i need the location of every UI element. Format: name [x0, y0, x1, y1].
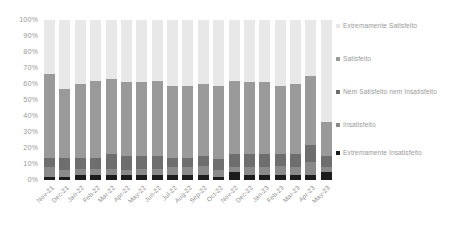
bar-aug-22[interactable] — [182, 20, 193, 180]
legend-label: Satisfeito — [343, 55, 371, 64]
bar-dec-22[interactable] — [244, 20, 255, 180]
bar-nov-22[interactable] — [229, 20, 240, 180]
legend-swatch-icon — [336, 90, 340, 94]
legend-label: Extremamente Satisfeito — [343, 22, 417, 31]
y-tick-label: 50% — [0, 96, 38, 104]
bar-segment — [182, 158, 193, 168]
bar-jan-23[interactable] — [259, 20, 270, 180]
bar-dec-21[interactable] — [59, 20, 70, 180]
bar-feb-23[interactable] — [275, 20, 286, 180]
bar-segment — [259, 20, 270, 82]
bar-segment — [213, 177, 224, 180]
bar-segment — [90, 158, 101, 169]
x-tick-wrap: Jun-22 — [152, 181, 163, 225]
bar-segment — [259, 154, 270, 167]
x-tick-wrap: Sep-22 — [198, 181, 209, 225]
bar-segment — [213, 86, 224, 160]
bar-jun-22[interactable] — [152, 20, 163, 180]
bar-segment — [229, 20, 240, 81]
bar-segment — [106, 154, 117, 168]
bar-segment — [290, 84, 301, 154]
y-tick-label: 100% — [0, 16, 38, 24]
legend-item-2[interactable]: Satisfeito — [336, 55, 371, 64]
legend-label: Nem Satisfeito nem Insatisfeito — [343, 88, 437, 97]
bar-segment — [121, 175, 132, 180]
bar-segment — [305, 162, 316, 175]
x-tick-wrap: Jan-22 — [75, 181, 86, 225]
plot-area — [44, 20, 332, 180]
bar-segment — [75, 175, 86, 180]
bar-may-23[interactable] — [321, 20, 332, 180]
bar-segment — [198, 84, 209, 156]
bar-sep-22[interactable] — [198, 20, 209, 180]
y-tick-label: 10% — [0, 160, 38, 168]
bar-segment — [229, 154, 240, 167]
bar-segment — [182, 167, 193, 175]
bar-group — [44, 20, 332, 180]
x-tick-wrap: May-22 — [136, 181, 147, 225]
stacked-bar-chart: 100%90%80%70%60%50%40%30%20%10%0% Nov-21… — [0, 0, 461, 225]
legend-item-1[interactable]: Extremamente Satisfeito — [336, 22, 417, 31]
bar-segment — [167, 20, 178, 86]
bar-segment — [244, 82, 255, 154]
bar-jul-22[interactable] — [167, 20, 178, 180]
bar-segment — [90, 20, 101, 81]
legend-item-3[interactable]: Nem Satisfeito nem Insatisfeito — [336, 88, 437, 97]
bar-segment — [152, 81, 163, 156]
bar-segment — [121, 156, 132, 170]
bar-segment — [198, 156, 209, 166]
bar-segment — [244, 20, 255, 82]
bar-segment — [259, 175, 270, 180]
bar-segment — [90, 175, 101, 180]
bar-segment — [244, 175, 255, 180]
bar-segment — [321, 20, 332, 122]
bar-segment — [213, 20, 224, 86]
y-tick-label: 90% — [0, 32, 38, 40]
bar-segment — [198, 175, 209, 180]
y-tick-label: 20% — [0, 144, 38, 152]
bar-segment — [321, 156, 332, 167]
legend-swatch-icon — [336, 57, 340, 61]
bar-nov-21[interactable] — [44, 20, 55, 180]
y-tick-label: 40% — [0, 112, 38, 120]
bar-segment — [136, 156, 147, 169]
bar-segment — [244, 154, 255, 167]
bar-may-22[interactable] — [136, 20, 147, 180]
bar-apr-22[interactable] — [121, 20, 132, 180]
x-tick-wrap: Mar-23 — [290, 181, 301, 225]
bar-segment — [275, 86, 286, 155]
legend-swatch-icon — [336, 151, 340, 155]
bar-segment — [121, 20, 132, 82]
bar-jan-22[interactable] — [75, 20, 86, 180]
bar-segment — [44, 177, 55, 180]
bar-segment — [198, 20, 209, 84]
bar-segment — [59, 20, 70, 89]
bar-segment — [75, 20, 86, 84]
bar-segment — [136, 20, 147, 82]
bar-mar-23[interactable] — [290, 20, 301, 180]
bar-segment — [290, 175, 301, 180]
bar-segment — [275, 154, 286, 165]
y-tick-label: 70% — [0, 64, 38, 72]
bar-oct-22[interactable] — [213, 20, 224, 180]
y-tick-label: 0% — [0, 176, 38, 184]
bar-feb-22[interactable] — [90, 20, 101, 180]
x-tick-wrap: Feb-22 — [90, 181, 101, 225]
legend-item-4[interactable]: Insatisfeito — [336, 121, 376, 130]
bar-segment — [75, 84, 86, 158]
bar-segment — [152, 20, 163, 81]
bar-segment — [305, 76, 316, 145]
x-tick-labels: Nov-21Dec-21Jan-22Feb-22Mar-22Apr-22May-… — [44, 181, 332, 225]
bar-segment — [59, 177, 70, 180]
bar-segment — [290, 154, 301, 167]
bar-segment — [106, 175, 117, 180]
bar-apr-23[interactable] — [305, 20, 316, 180]
bar-segment — [198, 166, 209, 176]
bar-mar-22[interactable] — [106, 20, 117, 180]
legend-swatch-icon — [336, 24, 340, 28]
bar-segment — [305, 20, 316, 76]
bar-segment — [182, 175, 193, 180]
legend-item-5[interactable]: Extremamente Insatisfeito — [336, 149, 422, 158]
bar-segment — [44, 20, 55, 74]
y-tick-label: 80% — [0, 48, 38, 56]
